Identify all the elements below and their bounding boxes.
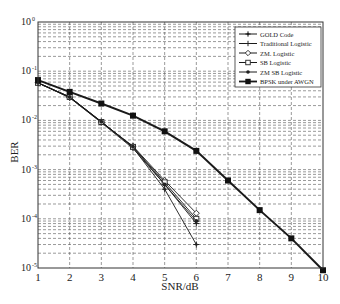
x-tick-label: 10 bbox=[318, 271, 330, 283]
legend-label: BPSK under AWGN bbox=[260, 78, 314, 85]
x-tick-label: 1 bbox=[35, 271, 41, 283]
legend-label: SB Logistic bbox=[260, 59, 291, 66]
series-traditional-logistic bbox=[35, 80, 199, 227]
y-tick-label: 10 bbox=[21, 164, 31, 175]
x-tick-label: 8 bbox=[257, 271, 263, 283]
legend: GOLD CodeTraditional LogisticZM. Logisti… bbox=[235, 27, 321, 87]
x-tick-label: 2 bbox=[67, 271, 73, 283]
y-tick-label: 10 bbox=[21, 114, 31, 125]
y-axis-label: BER bbox=[8, 141, 20, 163]
legend-item: BPSK under AWGN bbox=[239, 78, 314, 85]
y-tick-label: 10 bbox=[21, 262, 31, 273]
x-axis-label: SNR/dB bbox=[161, 280, 198, 292]
ber-chart: 10010-110-210-310-410-5 12345678910 SNR/… bbox=[0, 0, 340, 304]
series-sb-logistic bbox=[36, 80, 199, 221]
legend-label: ZM. Logistic bbox=[260, 50, 294, 57]
y-tick-exponent: -1 bbox=[32, 65, 37, 71]
legend-label: Traditional Logistic bbox=[260, 40, 312, 47]
legend-label: ZM SB Logistic bbox=[260, 69, 302, 76]
y-tick-exponent: 0 bbox=[32, 16, 35, 22]
x-tick-label: 3 bbox=[99, 271, 105, 283]
legend-item: ZM. Logistic bbox=[239, 50, 294, 57]
legend-label: GOLD Code bbox=[260, 31, 294, 38]
y-tick-exponent: -2 bbox=[32, 114, 37, 120]
y-tick-exponent: -3 bbox=[32, 164, 37, 170]
y-tick-label: 10 bbox=[21, 213, 31, 224]
y-tick-label: 10 bbox=[21, 16, 31, 27]
series-gold-code bbox=[35, 80, 199, 248]
legend-item: SB Logistic bbox=[239, 59, 291, 66]
series-zm-sb-logistic bbox=[36, 81, 198, 223]
x-tick-label: 4 bbox=[130, 271, 136, 283]
x-tick-label: 7 bbox=[225, 271, 231, 283]
y-tick-exponent: -5 bbox=[32, 262, 37, 268]
series-bpsk-under-awgn bbox=[35, 77, 326, 273]
y-tick-exponent: -4 bbox=[32, 213, 37, 219]
x-tick-label: 9 bbox=[289, 271, 295, 283]
data-series bbox=[35, 77, 326, 273]
y-tick-labels: 10010-110-210-310-410-5 bbox=[21, 16, 37, 273]
y-tick-label: 10 bbox=[21, 65, 31, 76]
